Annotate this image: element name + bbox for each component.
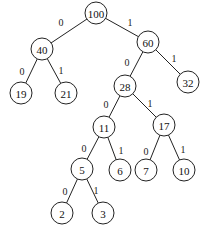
tree-node-5: 5 <box>71 158 93 180</box>
edge-label: 1 <box>94 185 99 196</box>
node-label: 11 <box>99 122 110 134</box>
tree-node-19: 19 <box>10 82 32 104</box>
tree-node-100: 100 <box>85 2 107 24</box>
node-label: 17 <box>159 120 171 132</box>
edge-label: 0 <box>125 57 130 68</box>
edge-label: 1 <box>181 144 186 155</box>
edge-label: 1 <box>59 65 64 76</box>
tree-node-3: 3 <box>92 202 114 224</box>
edge-label: 1 <box>128 17 133 28</box>
node-label: 5 <box>79 164 85 176</box>
edge-label: 0 <box>104 99 109 110</box>
node-label: 32 <box>183 77 194 89</box>
edge-label: 1 <box>119 145 124 156</box>
node-label: 100 <box>88 8 105 20</box>
nodes-layer: 10040601921283211175671023 <box>10 2 199 224</box>
edge-label: 0 <box>144 146 149 157</box>
node-label: 40 <box>37 44 49 56</box>
node-label: 19 <box>16 88 28 100</box>
tree-node-7: 7 <box>135 159 157 181</box>
node-label: 3 <box>100 208 106 220</box>
edge-label: 0 <box>63 186 68 197</box>
node-label: 6 <box>117 165 123 177</box>
tree-node-11: 11 <box>93 116 115 138</box>
node-label: 7 <box>143 165 149 177</box>
tree-node-28: 28 <box>114 75 136 97</box>
node-label: 10 <box>179 165 191 177</box>
edge-label: 0 <box>59 17 64 28</box>
edge-label: 1 <box>172 53 177 64</box>
tree-node-10: 10 <box>173 159 195 181</box>
node-label: 28 <box>120 81 132 93</box>
tree-node-21: 21 <box>55 82 77 104</box>
edge-label: 1 <box>148 98 153 109</box>
node-label: 60 <box>143 37 155 49</box>
node-label: 2 <box>59 208 65 220</box>
huffman-tree-diagram: 01010101010101 1004060192128321117567102… <box>0 0 210 233</box>
tree-node-2: 2 <box>51 202 73 224</box>
tree-node-40: 40 <box>31 38 53 60</box>
tree-node-6: 6 <box>109 159 131 181</box>
tree-node-17: 17 <box>153 114 175 136</box>
tree-node-60: 60 <box>137 31 159 53</box>
tree-node-32: 32 <box>177 71 199 93</box>
edge-label: 0 <box>82 143 87 154</box>
node-label: 21 <box>61 88 72 100</box>
edge-label: 0 <box>20 66 25 77</box>
